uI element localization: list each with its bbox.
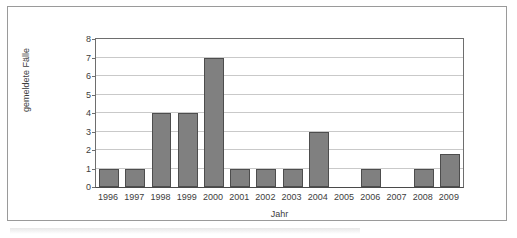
y-tick-mark xyxy=(92,132,95,133)
x-tick-label-1999: 1999 xyxy=(174,192,200,203)
gridline xyxy=(96,57,463,58)
x-tick-label-2001: 2001 xyxy=(226,192,252,203)
x-tick-label-2002: 2002 xyxy=(252,192,278,203)
y-tick-label: 7 xyxy=(65,54,91,63)
x-tick-label-2005: 2005 xyxy=(331,192,357,203)
x-tick-label-2008: 2008 xyxy=(410,192,436,203)
x-tick-label-2004: 2004 xyxy=(305,192,331,203)
x-tick-label-2000: 2000 xyxy=(200,192,226,203)
y-tick-label: 6 xyxy=(65,72,91,81)
bar-2006 xyxy=(361,169,381,188)
x-tick-label-2006: 2006 xyxy=(357,192,383,203)
y-tick-mark xyxy=(92,95,95,96)
bar-2001 xyxy=(230,169,250,188)
y-tick-label: 2 xyxy=(65,146,91,155)
y-tick-mark xyxy=(92,187,95,188)
figure: gemeldete Fälle 012345678 19961997199819… xyxy=(0,0,517,238)
bar-2000 xyxy=(204,58,224,188)
x-tick-label-1997: 1997 xyxy=(121,192,147,203)
gridline xyxy=(96,94,463,95)
y-tick-mark xyxy=(92,39,95,40)
bar-1999 xyxy=(178,113,198,187)
x-axis-ticks: 1996199719981999200020012002200320042005… xyxy=(95,192,464,206)
gridline xyxy=(96,75,463,76)
bar-2003 xyxy=(283,169,303,188)
x-tick-label-1998: 1998 xyxy=(147,192,173,203)
figure-frame: gemeldete Fälle 012345678 19961997199819… xyxy=(7,6,507,221)
x-tick-label-1996: 1996 xyxy=(95,192,121,203)
y-tick-mark xyxy=(92,76,95,77)
caption-band xyxy=(10,228,360,234)
y-tick-label: 4 xyxy=(65,109,91,118)
x-tick-label-2003: 2003 xyxy=(279,192,305,203)
y-tick-mark xyxy=(92,150,95,151)
bar-2004 xyxy=(309,132,329,188)
bar-2002 xyxy=(256,169,276,188)
bar-2008 xyxy=(414,169,434,188)
bar-1998 xyxy=(152,113,172,187)
y-axis-label: gemeldete Fälle xyxy=(21,25,31,135)
x-tick-label-2007: 2007 xyxy=(383,192,409,203)
x-tick-label-2009: 2009 xyxy=(436,192,462,203)
y-tick-label: 3 xyxy=(65,128,91,137)
y-tick-label: 8 xyxy=(65,35,91,44)
bar-2009 xyxy=(440,154,460,187)
plot-area xyxy=(95,38,464,188)
bar-1996 xyxy=(99,169,119,188)
y-tick-label: 0 xyxy=(65,183,91,192)
y-tick-mark xyxy=(92,113,95,114)
y-axis-ticks: 012345678 xyxy=(63,38,91,188)
bar-1997 xyxy=(125,169,145,188)
y-tick-label: 1 xyxy=(65,165,91,174)
y-tick-mark xyxy=(92,169,95,170)
x-axis-label: Jahr xyxy=(95,209,464,219)
y-tick-mark xyxy=(92,58,95,59)
y-tick-label: 5 xyxy=(65,91,91,100)
